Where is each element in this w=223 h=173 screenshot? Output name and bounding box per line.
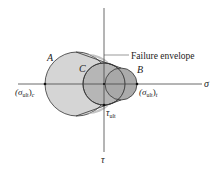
label-c: C	[79, 63, 86, 74]
mohr-failure-diagram: Failure envelope A C B σ τ (σult)c (σult…	[0, 0, 223, 173]
point-sigma-ult-c	[44, 83, 47, 86]
label-b: B	[137, 64, 143, 75]
sigma-ult-t-label: (σult)t	[139, 87, 158, 98]
svg-text:(σult)t: (σult)t	[139, 87, 158, 98]
label-a: A	[46, 52, 54, 63]
point-origin	[103, 83, 105, 85]
tau-ult-label: τult	[106, 108, 116, 119]
point-tau-ult	[103, 104, 106, 107]
sigma-ult-c-label: (σult)c	[15, 87, 35, 98]
svg-text:(σult)c: (σult)c	[15, 87, 35, 98]
point-sigma-ult-t	[136, 83, 139, 86]
tau-axis-label: τ	[101, 154, 105, 165]
diagram-canvas: Failure envelope A C B σ τ (σult)c (σult…	[0, 0, 223, 173]
envelope-label: Failure envelope	[131, 51, 195, 61]
sigma-axis-label: σ	[204, 78, 210, 89]
svg-text:τult: τult	[106, 108, 116, 119]
